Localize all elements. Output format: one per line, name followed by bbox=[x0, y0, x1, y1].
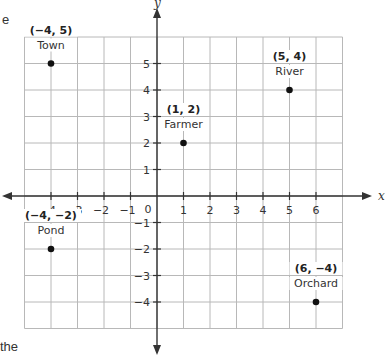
origin-label: 0 bbox=[145, 203, 152, 216]
point-coordinate-label: (5, 4) bbox=[273, 50, 306, 63]
point-name-label: Town bbox=[36, 39, 65, 52]
y-tick-label: −4 bbox=[134, 296, 150, 309]
point-coordinate-label: (1, 2) bbox=[167, 103, 200, 116]
plotted-points: (−4, 5)Town(1, 2)Farmer(5, 4)River(−4, −… bbox=[21, 24, 343, 306]
y-tick-label: −3 bbox=[134, 270, 150, 283]
point-marker-icon bbox=[180, 140, 187, 147]
point-coordinate-label: (−4, 5) bbox=[30, 24, 73, 37]
x-tick-label: 6 bbox=[313, 204, 320, 217]
point-marker-icon bbox=[48, 60, 55, 67]
x-tick-label: −1 bbox=[119, 204, 135, 217]
y-tick-label: 1 bbox=[143, 164, 150, 177]
point-marker-icon bbox=[48, 246, 55, 253]
point-name-label: Orchard bbox=[294, 277, 338, 290]
point-name-label: Pond bbox=[38, 224, 65, 237]
tick-labels: −4−3−2−112345654321−1−2−3−40 bbox=[40, 58, 320, 310]
y-tick-label: −2 bbox=[134, 243, 150, 256]
x-tick-label: 4 bbox=[260, 204, 267, 217]
x-tick-label: 5 bbox=[286, 204, 293, 217]
point-farmer: (1, 2)Farmer bbox=[161, 103, 207, 146]
point-orchard: (6, −4)Orchard bbox=[290, 262, 343, 305]
x-axis-right-arrow-icon bbox=[362, 192, 372, 200]
point-coordinate-label: (6, −4) bbox=[295, 262, 338, 275]
x-tick-label: 2 bbox=[207, 204, 214, 217]
x-axis-left-arrow-icon bbox=[2, 192, 12, 200]
y-axis-down-arrow-icon bbox=[153, 345, 161, 355]
point-town: (−4, 5)Town bbox=[25, 24, 78, 67]
y-tick-label: 2 bbox=[143, 137, 150, 150]
point-coordinate-label: (−4, −2) bbox=[25, 209, 77, 222]
y-tick-label: 5 bbox=[143, 58, 150, 71]
y-axis-label: y bbox=[153, 0, 161, 10]
point-marker-icon bbox=[286, 87, 293, 94]
point-river: (5, 4)River bbox=[267, 50, 313, 93]
point-pond: (−4, −2)Pond bbox=[21, 209, 81, 252]
x-tick-label: −2 bbox=[93, 204, 109, 217]
point-name-label: Farmer bbox=[164, 118, 203, 131]
x-tick-label: 1 bbox=[180, 204, 187, 217]
point-marker-icon bbox=[313, 299, 320, 306]
y-tick-label: −1 bbox=[134, 217, 150, 230]
x-tick-label: 3 bbox=[233, 204, 240, 217]
point-name-label: River bbox=[275, 65, 304, 78]
coordinate-plane: xy −4−3−2−112345654321−1−2−3−40 (−4, 5)T… bbox=[0, 0, 388, 360]
x-axis-label: x bbox=[378, 189, 385, 203]
y-tick-label: 4 bbox=[143, 84, 150, 97]
y-tick-label: 3 bbox=[143, 111, 150, 124]
